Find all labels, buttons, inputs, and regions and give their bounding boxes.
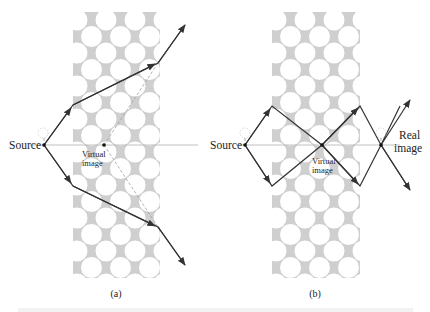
slab-hole	[353, 175, 374, 196]
slab-hole	[67, 109, 88, 130]
slab-hole	[125, 109, 146, 130]
slab-hole	[309, 224, 330, 245]
panel-b: Source Virtual image Real image (b)	[210, 10, 422, 301]
slab-hole	[139, 191, 160, 212]
slab-hole	[81, 257, 102, 278]
slab-hole	[110, 125, 131, 146]
slab-hole	[139, 224, 160, 245]
slab-b	[266, 10, 374, 295]
slab-hole	[324, 109, 345, 130]
slab-hole	[96, 175, 117, 196]
slab-hole	[280, 92, 301, 113]
slab-hole	[125, 274, 146, 295]
slab-hole	[280, 26, 301, 47]
virtual-image-label-b-line2: image	[312, 165, 333, 175]
slab-hole	[67, 175, 88, 196]
real-image-point-b	[379, 143, 383, 147]
slab-hole	[309, 191, 330, 212]
slab-hole	[324, 274, 345, 295]
slab-hole	[125, 241, 146, 262]
slab-hole	[353, 10, 374, 31]
slab-hole	[67, 208, 88, 229]
slab-hole	[96, 10, 117, 31]
slab-hole	[295, 76, 316, 97]
slab-hole	[280, 257, 301, 278]
slab-hole	[309, 92, 330, 113]
source-label-a: Source	[9, 139, 41, 151]
slab-hole	[125, 43, 146, 64]
slab-hole	[110, 92, 131, 113]
slab-hole	[110, 59, 131, 80]
slab-hole	[81, 125, 102, 146]
slab-hole	[154, 43, 175, 64]
source-point-a	[42, 143, 46, 147]
slab-hole	[266, 208, 287, 229]
real-image-label-b-line1: Real	[399, 129, 420, 141]
slab-hole	[96, 208, 117, 229]
slab-hole	[139, 257, 160, 278]
ray-arrow-6a	[158, 227, 185, 265]
slab-hole	[139, 59, 160, 80]
slab-hole	[67, 241, 88, 262]
slab-hole	[81, 26, 102, 47]
slab-hole	[154, 175, 175, 196]
slab-hole	[324, 76, 345, 97]
slab-hole	[280, 191, 301, 212]
slab-hole	[67, 43, 88, 64]
real-image-label-b-line2: image	[394, 142, 422, 155]
slab-hole	[96, 43, 117, 64]
slab-hole	[324, 43, 345, 64]
slab-hole	[125, 208, 146, 229]
slab-hole	[295, 241, 316, 262]
slab-hole	[110, 158, 131, 179]
slab-hole	[266, 76, 287, 97]
slab-hole	[309, 257, 330, 278]
slab-hole	[81, 59, 102, 80]
source-point-b	[243, 143, 247, 147]
slab-hole	[338, 59, 359, 80]
ray-arrow-1a	[44, 108, 71, 145]
slab-hole	[324, 241, 345, 262]
slab-hole	[110, 224, 131, 245]
slab-hole	[81, 224, 102, 245]
slab-hole	[280, 158, 301, 179]
slab-hole	[309, 59, 330, 80]
slab-hole	[67, 76, 88, 97]
slab-hole	[353, 208, 374, 229]
slab-hole	[266, 241, 287, 262]
slab-hole	[338, 26, 359, 47]
slab-hole	[67, 10, 88, 31]
slab-hole	[266, 43, 287, 64]
slab-hole	[295, 10, 316, 31]
slab-hole	[280, 125, 301, 146]
slab-hole	[295, 175, 316, 196]
slab-hole	[154, 109, 175, 130]
slab-hole	[154, 76, 175, 97]
slab-hole	[67, 274, 88, 295]
figure: Source Virtual image (a) Source Virtual …	[0, 0, 430, 312]
slab-hole	[295, 43, 316, 64]
slab-hole	[324, 208, 345, 229]
panel-label-b: (b)	[309, 288, 321, 300]
virtual-image-label-a-line2: image	[82, 158, 103, 168]
ray-arrow-1b	[245, 109, 270, 145]
slab-hole	[353, 241, 374, 262]
slab-hole	[266, 274, 287, 295]
slab-hole	[96, 241, 117, 262]
slab-hole	[280, 59, 301, 80]
virtual-image-point-a	[102, 143, 106, 147]
slab-hole	[338, 158, 359, 179]
panel-label-a: (a)	[110, 288, 121, 300]
slab-hole	[338, 191, 359, 212]
slab-hole	[266, 175, 287, 196]
virtual-image-point-b	[320, 143, 324, 147]
slab-hole	[96, 109, 117, 130]
source-label-b: Source	[210, 139, 242, 151]
ray-arrow-3a	[158, 25, 185, 63]
slab-hole	[338, 125, 359, 146]
slab-hole	[353, 274, 374, 295]
caption-cutoff	[18, 308, 413, 312]
slab-hole	[154, 241, 175, 262]
ray-arrow-4a	[44, 145, 71, 183]
slab-hole	[110, 26, 131, 47]
